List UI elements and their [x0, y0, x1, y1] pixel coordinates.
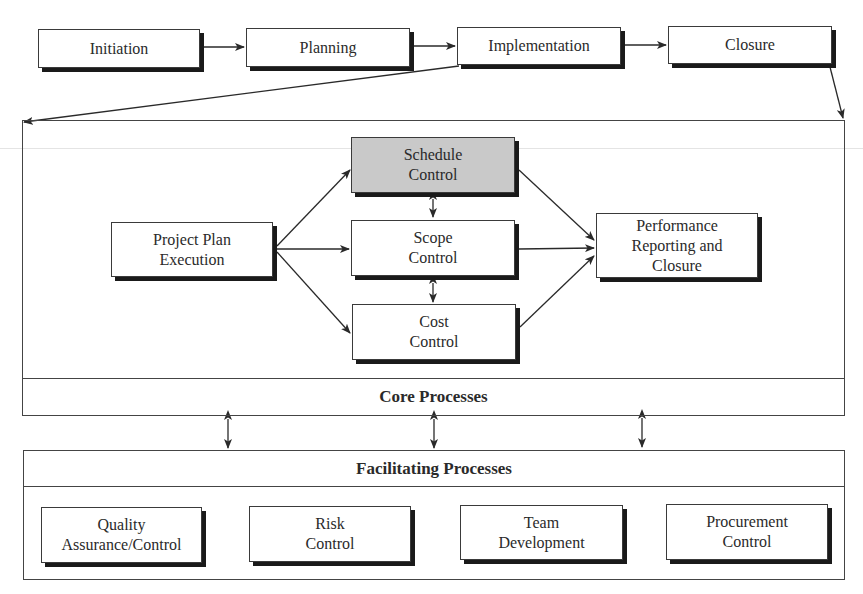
scope-line2: Control	[409, 248, 458, 268]
procurement-line2: Control	[723, 532, 772, 552]
schedule-control-box: Schedule Control	[351, 137, 515, 193]
team-line2: Development	[498, 533, 584, 553]
risk-control-box: Risk Control	[249, 506, 411, 562]
risk-line1: Risk	[315, 514, 344, 534]
cost-control-box: Cost Control	[352, 304, 516, 360]
phase-label: Implementation	[488, 36, 589, 56]
scope-control-box: Scope Control	[351, 220, 515, 276]
cost-line1: Cost	[419, 312, 448, 332]
arrow-implementation-to-core-left	[24, 66, 459, 122]
project-plan-execution-box: Project Plan Execution	[111, 222, 273, 277]
team-development-box: Team Development	[460, 505, 623, 560]
plan-line2: Execution	[160, 250, 225, 270]
phase-label: Initiation	[90, 39, 149, 59]
phase-initiation: Initiation	[38, 29, 200, 68]
core-processes-band: Core Processes	[23, 378, 844, 415]
risk-line2: Control	[306, 534, 355, 554]
cost-line2: Control	[410, 332, 459, 352]
scope-line1: Scope	[413, 228, 452, 248]
team-line1: Team	[524, 513, 559, 533]
phase-implementation: Implementation	[457, 27, 621, 65]
performance-line3: Closure	[652, 256, 702, 276]
phase-label: Planning	[300, 38, 357, 58]
core-processes-title: Core Processes	[379, 387, 487, 407]
schedule-line2: Control	[409, 165, 458, 185]
performance-reporting-box: Performance Reporting and Closure	[596, 213, 758, 278]
phase-planning: Planning	[246, 28, 410, 67]
arrow-closure-to-core-right	[830, 67, 843, 118]
quality-assurance-box: Quality Assurance/Control	[41, 507, 202, 563]
phase-label: Closure	[725, 35, 775, 55]
quality-line2: Assurance/Control	[62, 535, 182, 555]
performance-line2: Reporting and	[631, 236, 722, 256]
phase-closure: Closure	[668, 26, 832, 64]
facilitating-processes-band: Facilitating Processes	[24, 451, 844, 487]
schedule-line1: Schedule	[404, 145, 463, 165]
procurement-control-box: Procurement Control	[666, 504, 828, 560]
plan-line1: Project Plan	[153, 230, 231, 250]
facilitating-processes-title: Facilitating Processes	[356, 459, 512, 479]
procurement-line1: Procurement	[706, 512, 788, 532]
quality-line1: Quality	[98, 515, 146, 535]
performance-line1: Performance	[636, 216, 718, 236]
